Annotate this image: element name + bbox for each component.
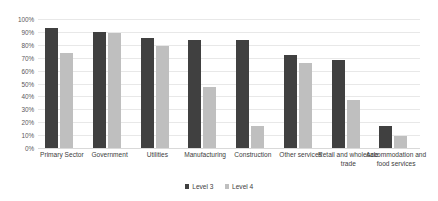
y-axis-tick-label: 20% (22, 119, 35, 126)
bar-level-4 (60, 53, 73, 148)
bar-group (372, 19, 420, 148)
y-axis-tick-label: 90% (22, 28, 35, 35)
y-axis-tick-label: 70% (22, 54, 35, 61)
bar-chart: 0%10%20%30%40%50%60%70%80%90%100% Primar… (0, 0, 438, 201)
legend-swatch-level-4 (225, 184, 230, 189)
bar-level-4 (251, 126, 264, 148)
y-axis-tick-label: 100% (18, 16, 34, 23)
legend-swatch-level-3 (185, 184, 190, 189)
bars-layer (38, 19, 420, 148)
bar-group (86, 19, 134, 148)
bar-group (134, 19, 182, 148)
bar-level-3 (188, 40, 201, 148)
bar-level-4 (156, 46, 169, 148)
y-axis: 0%10%20%30%40%50%60%70%80%90%100% (0, 19, 34, 148)
bar-level-4 (108, 33, 121, 148)
bar-level-3 (379, 126, 392, 148)
bar-level-3 (45, 28, 58, 148)
gridline-0 (38, 148, 420, 149)
legend-label: Level 4 (232, 183, 253, 190)
bar-group (181, 19, 229, 148)
bar-level-3 (93, 32, 106, 148)
bar-level-4 (203, 87, 216, 148)
legend-item: Level 3 (185, 183, 214, 190)
bar-group (38, 19, 86, 148)
y-axis-tick-label: 40% (22, 93, 35, 100)
legend-item: Level 4 (225, 183, 254, 190)
bar-level-4 (347, 100, 360, 148)
bar-level-4 (299, 63, 312, 148)
bar-level-4 (394, 136, 407, 148)
chart-legend: Level 3Level 4 (0, 183, 438, 190)
y-axis-tick-label: 30% (22, 106, 35, 113)
bar-group (277, 19, 325, 148)
y-axis-tick-label: 50% (22, 80, 35, 87)
legend-label: Level 3 (192, 183, 213, 190)
bar-level-3 (236, 40, 249, 148)
bar-level-3 (284, 55, 297, 148)
bar-level-3 (332, 60, 345, 148)
x-axis-tick-label: Accommodation and food services (364, 151, 429, 168)
bar-group (325, 19, 373, 148)
y-axis-tick-label: 60% (22, 67, 35, 74)
bar-level-3 (141, 38, 154, 148)
y-axis-tick-label: 10% (22, 132, 35, 139)
bar-group (229, 19, 277, 148)
y-axis-tick-label: 80% (22, 41, 35, 48)
